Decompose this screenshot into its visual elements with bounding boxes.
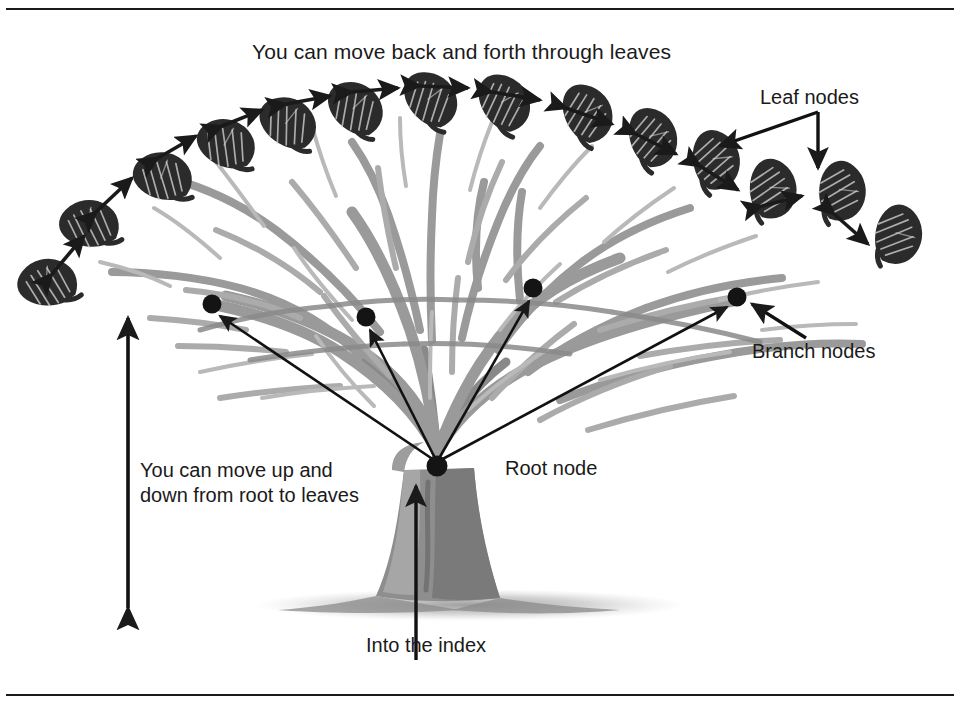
branch-nodes-callout-arrow [752, 304, 806, 338]
up-down-caption: You can move up and down from root to le… [140, 458, 359, 508]
canopy-branches [100, 118, 862, 455]
diagram-title: You can move back and forth through leav… [252, 40, 671, 64]
branch-nodes-label: Branch nodes [752, 340, 875, 363]
figure-page: You can move back and forth through leav… [0, 0, 960, 716]
root-node-label: Root node [505, 457, 597, 480]
leaf-nodes-label: Leaf nodes [760, 86, 859, 109]
into-the-index-label: Into the index [366, 634, 486, 657]
root-node-dot [427, 456, 448, 477]
